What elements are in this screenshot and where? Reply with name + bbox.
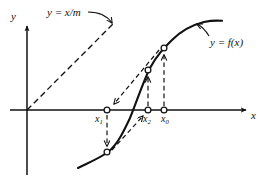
tick-label-x1-sub: 1 [100, 118, 103, 125]
line-equation-label: y = x/m [47, 7, 81, 18]
x-axis-label: x [251, 110, 256, 121]
tick-label-x2-base: x [143, 113, 147, 124]
point-f-x1-on-curve [104, 149, 110, 155]
tick-label-x0-sub: 0 [166, 118, 169, 125]
tick-label-x1: x1 [95, 114, 103, 124]
arrow-curve-f-x0-to-line [114, 50, 159, 104]
marked-points [104, 45, 167, 155]
fixed-point-iteration-diagram [0, 0, 267, 181]
curve-y-equals-f-of-x [78, 21, 222, 168]
tick-label-x0: x0 [161, 114, 169, 124]
axis-group [10, 26, 246, 175]
leader-to-curve-label [197, 24, 209, 36]
point-f-x0-on-curve [161, 45, 167, 51]
tick-label-x2: x2 [143, 114, 151, 124]
leader-to-line-label [88, 12, 112, 23]
point-x1-on-axis [104, 107, 110, 113]
tick-label-x0-base: x [161, 113, 165, 124]
figure-canvas: y x y = x/m y = f(x) x1 x2 x0 [0, 0, 267, 181]
line-y-equals-x-over-m [27, 24, 113, 110]
tick-label-x2-sub: 2 [148, 118, 151, 125]
tick-label-x1-base: x [95, 113, 99, 124]
point-f-x2-on-curve [145, 67, 151, 73]
curve-equation-label: y = f(x) [210, 37, 243, 48]
y-axis-label: y [11, 11, 16, 22]
iteration-arrows [107, 50, 164, 150]
annotation-leaders [88, 12, 209, 36]
